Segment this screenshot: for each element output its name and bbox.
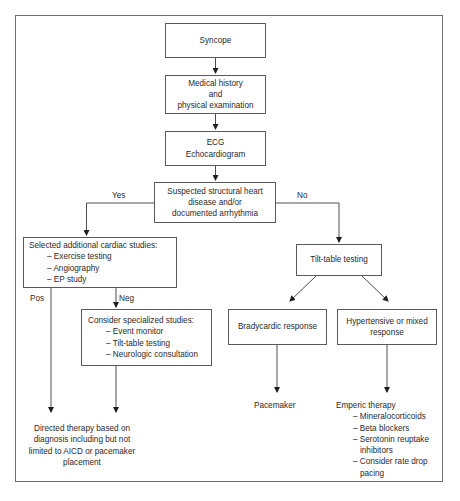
node-suspected-line: disease and/or [188, 197, 242, 208]
node-consider-item: – Tilt-table testing [88, 338, 211, 349]
node-selected-cardiac-studies: Selected additional cardiac studies: – E… [23, 237, 177, 288]
node-selected-item: – EP study [29, 274, 176, 285]
node-suspected-line: Suspected structural heart [167, 186, 263, 197]
node-tilt-text: Tilt-table testing [310, 254, 368, 265]
node-hyper-line: response [370, 327, 404, 338]
node-emperic-item: – Beta blockers [336, 423, 429, 434]
node-selected-title: Selected additional cardiac studies: [29, 240, 176, 251]
node-directed-therapy: Directed therapy based on diagnosis incl… [20, 423, 144, 468]
node-emperic-item: pacing [336, 468, 429, 479]
node-emperic-item: – Consider rate drop [336, 456, 429, 467]
edge-label-neg: Neg [119, 293, 134, 304]
node-directed-line: Directed therapy based on [20, 423, 144, 434]
node-consider-item: – Neurologic consultation [88, 349, 211, 360]
node-directed-line: diagnosis including but not [20, 434, 144, 445]
node-selected-item: – Exercise testing [29, 251, 176, 262]
node-directed-line: limited to AICD or pacemaker [20, 446, 144, 457]
node-syncope-text: Syncope [200, 35, 232, 46]
node-ecg-line: ECG [207, 137, 225, 148]
node-bradycardic-response: Bradycardic response [228, 309, 327, 345]
node-selected-item: – Angiography [29, 263, 176, 274]
node-history-line: physical examination [177, 100, 253, 111]
node-suspected-line: documented arrhythmia [172, 208, 258, 219]
node-emperic-therapy: Emperic therapy – Mineralocorticoids – B… [336, 400, 429, 479]
node-history-line: and [209, 89, 223, 100]
node-consider-specialized-studies: Consider specialized studies: – Event mo… [81, 309, 212, 366]
node-medical-history: Medical history and physical examination [165, 75, 266, 114]
edge-label-no: No [297, 190, 307, 201]
node-pacemaker: Pacemaker [254, 400, 295, 411]
node-emperic-item: – Serotonin reuptake [336, 434, 429, 445]
node-consider-item: – Event monitor [88, 326, 211, 337]
edge-label-pos: Pos [30, 293, 44, 304]
edge-label-yes: Yes [112, 190, 125, 201]
node-syncope: Syncope [165, 23, 266, 58]
node-history-line: Medical history [188, 78, 243, 89]
node-ecg: ECG Echocardiogram [165, 131, 266, 166]
node-emperic-item: inhibitors [336, 445, 429, 456]
node-consider-title: Consider specialized studies: [88, 315, 211, 326]
node-hypertensive-mixed-response: Hypertensive or mixed response [337, 309, 437, 345]
node-ecg-line: Echocardiogram [186, 149, 246, 160]
node-emperic-title: Emperic therapy [336, 400, 429, 411]
node-hyper-line: Hypertensive or mixed [346, 316, 427, 327]
node-directed-line: placement [20, 457, 144, 468]
node-tilt-table-testing: Tilt-table testing [296, 244, 382, 276]
node-suspected-structural: Suspected structural heart disease and/o… [154, 182, 276, 223]
node-emperic-item: – Mineralocorticoids [336, 411, 429, 422]
node-brady-text: Bradycardic response [238, 321, 317, 332]
